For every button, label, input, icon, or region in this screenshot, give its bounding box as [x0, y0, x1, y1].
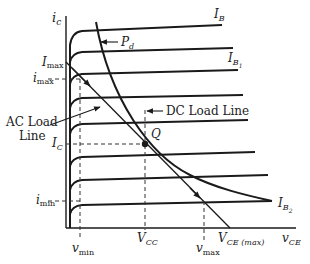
ac-load-line-label: AC Load	[5, 115, 58, 129]
Imax-label: Imax	[41, 55, 64, 70]
ib2-label: IB2	[277, 196, 293, 214]
ac-load-line-arrow-2	[190, 188, 200, 198]
dc-load-line-label: DC Load Line	[166, 104, 249, 118]
IC-label: IC	[51, 136, 63, 152]
imax-label: imax	[33, 71, 54, 86]
vcc-label: VCC	[137, 231, 158, 247]
vmin-label: vmin	[72, 241, 94, 257]
curve-ib2	[70, 201, 272, 228]
ac-load-line-label-2: Line	[19, 129, 46, 143]
pd-label: Pd	[120, 35, 134, 51]
x-axis-label: vCE	[282, 231, 301, 247]
transistor-characteristic-diagram: ic vCE IB IB1 IB2 Pd Imax imax IC imin v…	[0, 0, 310, 264]
vce-max-label: VCE (max)	[218, 231, 264, 247]
vmax-label: vmax	[196, 241, 220, 257]
q-label: Q	[151, 127, 161, 141]
y-axis-label: ic	[52, 10, 61, 27]
ib-label: IB	[213, 7, 225, 23]
q-point	[142, 141, 148, 147]
imin-label: imin	[36, 193, 55, 208]
collector-curves	[70, 25, 272, 228]
ib1-label: IB1	[227, 51, 242, 69]
